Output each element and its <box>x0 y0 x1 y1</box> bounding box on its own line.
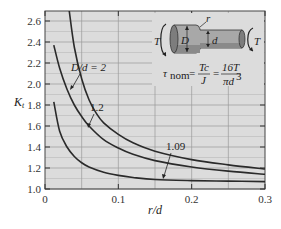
y-tick-label: 2.4 <box>27 36 41 48</box>
y-tick-label: 1.4 <box>27 141 41 153</box>
torque-right-label: T <box>254 35 261 47</box>
y-tick-label: 1.6 <box>27 120 41 132</box>
x-axis-label: r/d <box>148 203 163 217</box>
svg-text:nom: nom <box>170 69 190 81</box>
y-tick-label: 1.8 <box>27 99 41 111</box>
y-tick-label: 2.6 <box>27 15 41 27</box>
x-tick-label: 0 <box>42 193 48 205</box>
annotation-1.09: 1.09 <box>166 140 186 152</box>
annotation-Dd-2: D/d = 2 <box>70 61 106 73</box>
annotation-1.2: 1.2 <box>90 101 104 113</box>
stress-concentration-chart: 1.01.21.41.61.82.02.22.42.6 00.10.20.3 K… <box>0 0 281 229</box>
dim-r-label: r <box>206 12 211 24</box>
y-tick-label: 2.0 <box>27 78 41 90</box>
svg-text:3: 3 <box>236 70 242 82</box>
dim-D-label: D <box>180 34 189 46</box>
dim-d-label: d <box>212 34 218 46</box>
svg-text:=: = <box>213 67 219 79</box>
x-tick-label: 0.1 <box>111 193 125 205</box>
x-tick-label: 0.2 <box>185 193 199 205</box>
torque-left-label: T <box>154 35 161 47</box>
y-axis-label: Kt <box>13 95 25 110</box>
svg-text:=: = <box>189 67 195 79</box>
svg-text:πd: πd <box>223 75 235 87</box>
y-tick-label: 1.0 <box>27 183 41 195</box>
shaft-diagram: T D d r T τ nom = Tc J = <box>152 12 264 87</box>
y-tick-label: 2.2 <box>27 57 41 69</box>
y-tick-label: 1.2 <box>27 162 41 174</box>
svg-text:Tc: Tc <box>199 61 209 73</box>
x-tick-label: 0.3 <box>258 193 272 205</box>
